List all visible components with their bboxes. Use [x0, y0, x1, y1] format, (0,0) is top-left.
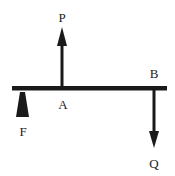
label-f: F [19, 125, 26, 138]
lever-diagram [0, 0, 175, 176]
lever-bar [12, 86, 167, 91]
force-q-arrow-icon [149, 90, 159, 148]
label-b: B [150, 67, 159, 80]
fulcrum-icon [16, 92, 29, 117]
label-p: P [58, 11, 65, 24]
force-p-arrow-icon [57, 27, 67, 88]
label-a: A [58, 98, 67, 111]
label-q: Q [149, 157, 158, 170]
